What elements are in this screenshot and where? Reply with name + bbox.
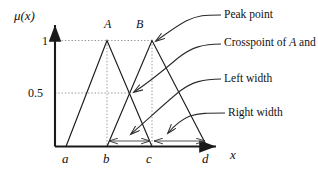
x-axis-label: x bbox=[230, 148, 236, 161]
x-tick-label-b: b bbox=[103, 152, 110, 165]
axes bbox=[55, 25, 216, 147]
annotation-left-width: Left width bbox=[224, 73, 272, 85]
y-tick-label-1: 1 bbox=[42, 35, 48, 47]
set-label-b: B bbox=[136, 18, 143, 30]
annotation-crosspoint-mid: and bbox=[296, 36, 318, 48]
y-axis-label: μ(x) bbox=[14, 9, 35, 22]
annotation-crosspoint: Crosspoint of A and B bbox=[224, 37, 318, 49]
leader-peak-point bbox=[156, 15, 221, 41]
annotation-right-width: Right width bbox=[228, 107, 283, 119]
annotation-crosspoint-pre: Crosspoint of bbox=[224, 36, 289, 48]
triangle-b-outline bbox=[107, 41, 207, 147]
membership-triangle-a bbox=[66, 41, 152, 147]
annotation-leaders bbox=[131, 15, 225, 134]
x-tick-label-d: d bbox=[202, 152, 209, 165]
y-tick-label-05: 0.5 bbox=[28, 87, 43, 99]
leader-right-width bbox=[168, 113, 225, 133]
figure-canvas bbox=[0, 0, 318, 177]
triangle-a-outline bbox=[66, 41, 152, 147]
x-tick-label-a: a bbox=[62, 152, 69, 165]
x-tick-label-c: c bbox=[146, 152, 152, 165]
fuzzy-sets-figure: μ(x) x 1 0.5 a b c d A B Peak point Cros… bbox=[0, 0, 318, 177]
annotation-peak-point: Peak point bbox=[224, 9, 273, 21]
membership-triangle-b bbox=[107, 41, 207, 147]
guide-lines bbox=[55, 41, 153, 147]
set-label-a: A bbox=[104, 18, 111, 30]
